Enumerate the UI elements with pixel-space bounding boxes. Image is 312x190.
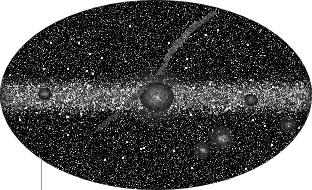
sky-map-canvas — [0, 0, 312, 190]
leader-line — [41, 158, 42, 190]
all-sky-map-figure — [0, 0, 312, 190]
